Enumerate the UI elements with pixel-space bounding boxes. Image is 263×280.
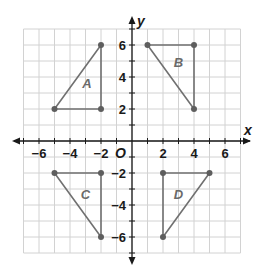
y-tick-label: −6 <box>111 230 126 245</box>
vertex-dot <box>191 42 197 48</box>
y-tick-label: 6 <box>119 38 126 53</box>
vertex-dot <box>98 42 104 48</box>
vertex-dot <box>160 234 166 240</box>
vertex-dot <box>207 170 213 176</box>
vertex-dot <box>160 170 166 176</box>
vertex-dot <box>98 106 104 112</box>
vertex-dot <box>98 234 104 240</box>
y-axis-label: y <box>136 13 146 29</box>
y-tick-label: −2 <box>111 166 126 181</box>
x-tick-label: 4 <box>190 146 198 161</box>
y-tick-label: −4 <box>111 198 127 213</box>
axes <box>12 16 251 265</box>
y-tick-label: 4 <box>119 70 127 85</box>
x-tick-label: −6 <box>32 146 47 161</box>
triangle-label-d: D <box>174 187 184 202</box>
triangle-label-b: B <box>174 55 183 70</box>
coordinate-plane: ABCD −6−4−2246642−2−4−6Oxy <box>0 0 263 280</box>
y-axis-arrow-down-icon <box>129 257 136 265</box>
x-tick-label: 2 <box>159 146 166 161</box>
x-axis-arrow-right-icon <box>243 138 251 145</box>
y-tick-label: 2 <box>119 102 126 117</box>
triangle-label-c: C <box>81 187 91 202</box>
vertex-dot <box>98 170 104 176</box>
triangle-label-a: A <box>81 76 91 91</box>
vertex-dot <box>145 42 151 48</box>
vertex-dot <box>191 106 197 112</box>
y-axis-arrow-up-icon <box>129 16 136 24</box>
x-tick-label: 6 <box>221 146 228 161</box>
axis-labels: −6−4−2246642−2−4−6Oxy <box>32 13 254 245</box>
vertex-dot <box>52 106 58 112</box>
x-axis-label: x <box>243 122 253 138</box>
x-tick-label: −4 <box>63 146 79 161</box>
vertex-dot <box>52 170 58 176</box>
x-axis-arrow-left-icon <box>12 138 20 145</box>
x-tick-label: −2 <box>94 146 109 161</box>
origin-label: O <box>115 145 126 161</box>
